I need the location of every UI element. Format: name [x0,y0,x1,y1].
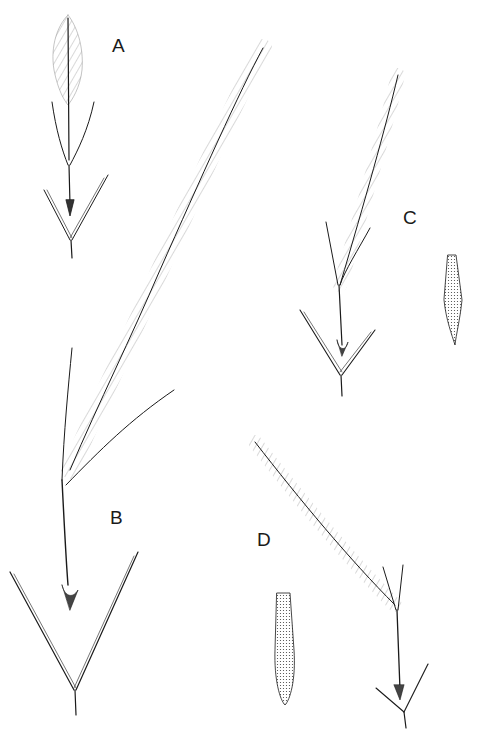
botanical-plate: A B C D [0,0,482,738]
figure-c-drawing [300,75,462,396]
figure-b-drawing [10,48,263,715]
figure-d-drawing [255,442,428,728]
plate-drawing [0,0,482,738]
figure-a-drawing [44,15,108,258]
